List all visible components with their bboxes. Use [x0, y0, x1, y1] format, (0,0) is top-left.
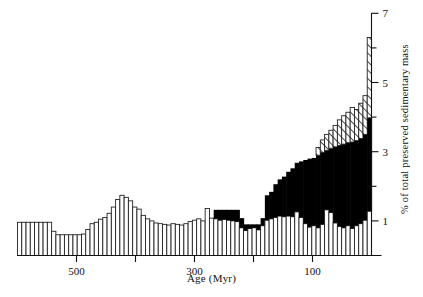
histogram-bar [265, 195, 270, 220]
histogram-bar [188, 222, 192, 256]
histogram-bar [244, 231, 248, 256]
histogram-bar [333, 125, 337, 146]
sedimentary-mass-histogram: 5003001001357 [0, 0, 423, 297]
y-axis-tick-label: 3 [383, 146, 389, 158]
histogram-bar [308, 159, 313, 228]
histogram-bar [150, 221, 154, 256]
histogram-bar [329, 213, 333, 256]
histogram-bar [278, 216, 282, 255]
histogram-bar [197, 219, 201, 256]
histogram-bar [354, 141, 359, 226]
histogram-bar [226, 220, 230, 255]
histogram-bar [81, 234, 85, 255]
histogram-bar [222, 220, 226, 256]
histogram-bar [286, 216, 290, 255]
histogram-bar [111, 207, 115, 255]
histogram-bar [278, 179, 283, 216]
histogram-bar [133, 207, 137, 255]
histogram-bar [269, 219, 273, 256]
histogram-bar [214, 219, 218, 256]
histogram-bar [107, 213, 111, 255]
histogram-bar [359, 224, 363, 256]
histogram-bar [226, 210, 231, 220]
histogram-bar [209, 218, 213, 255]
histogram-bar [329, 130, 333, 148]
histogram-bar [337, 145, 342, 226]
histogram-bar [60, 235, 64, 256]
histogram-bar [235, 222, 239, 256]
histogram-bar [94, 222, 98, 255]
histogram-bar [320, 140, 324, 152]
y-axis-tick-label: 7 [383, 7, 389, 19]
histogram-bar [231, 210, 236, 221]
histogram-bar [248, 229, 252, 256]
histogram-bar [290, 217, 294, 256]
histogram-bar [171, 224, 175, 256]
histogram-bar [218, 210, 223, 220]
histogram-bar [354, 226, 358, 256]
histogram-bar [354, 109, 358, 140]
histogram-bar [18, 222, 22, 255]
histogram-bar [346, 112, 350, 142]
histogram-bar [175, 224, 179, 255]
histogram-bar [163, 224, 167, 255]
histogram-bar [43, 222, 47, 255]
bars-layer [18, 38, 373, 256]
histogram-bar [273, 184, 278, 217]
histogram-bar [342, 116, 346, 144]
histogram-bar [39, 222, 43, 255]
histogram-bar [350, 107, 354, 142]
histogram-bar [90, 224, 94, 256]
histogram-bar [252, 224, 257, 227]
histogram-bar [329, 148, 334, 212]
histogram-bar [201, 221, 205, 256]
histogram-bar [320, 224, 324, 255]
histogram-bar [214, 210, 219, 219]
histogram-bar [363, 96, 367, 135]
histogram-bar [269, 192, 274, 219]
histogram-bar [290, 168, 295, 216]
histogram-bar [35, 222, 39, 255]
y-axis-tick-label: 1 [383, 215, 389, 227]
histogram-bar [56, 235, 60, 256]
histogram-bar [30, 222, 34, 255]
histogram-bar [99, 219, 103, 255]
histogram-bar [367, 211, 371, 255]
histogram-bar [154, 223, 158, 256]
histogram-bar [316, 155, 321, 228]
histogram-bar [116, 199, 120, 255]
histogram-bar [325, 134, 329, 150]
histogram-bar [282, 217, 286, 256]
histogram-bar [77, 235, 81, 256]
histogram-bar [103, 217, 107, 255]
histogram-bar [359, 139, 364, 224]
histogram-bar [312, 158, 317, 226]
histogram-bar [222, 210, 227, 220]
histogram-bar [316, 228, 320, 256]
histogram-bar [359, 103, 363, 138]
histogram-bar [342, 144, 347, 228]
histogram-bar [265, 220, 269, 255]
histogram-bar [350, 142, 355, 229]
x-axis-title: Age (Myr) [0, 272, 423, 284]
histogram-bar [350, 229, 354, 256]
histogram-bar [325, 150, 330, 210]
histogram-bar [141, 215, 145, 255]
histogram-bar [299, 161, 304, 217]
histogram-bar [342, 228, 346, 256]
histogram-bar [333, 147, 338, 223]
histogram-bar [325, 210, 329, 256]
histogram-bar [346, 226, 350, 256]
histogram-bar [282, 177, 287, 217]
histogram-bar [239, 218, 244, 228]
histogram-bar [295, 212, 299, 256]
histogram-bar [218, 220, 222, 255]
histogram-bar [231, 221, 235, 256]
histogram-bar [64, 235, 68, 256]
histogram-bar [303, 160, 308, 224]
histogram-bar [363, 220, 367, 255]
histogram-bar [256, 230, 260, 256]
chart-figure: 5003001001357 Age (Myr) % of total prese… [0, 0, 423, 297]
histogram-bar [333, 223, 337, 256]
histogram-bar [128, 201, 132, 256]
